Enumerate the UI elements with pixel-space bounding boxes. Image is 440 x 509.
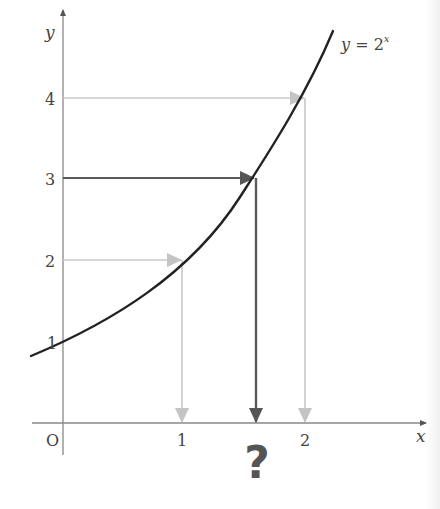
y-tick-1: 1 — [47, 334, 57, 353]
x-tick-1: 1 — [177, 431, 187, 450]
curve-label: y = 2x — [340, 33, 390, 54]
y-tick-3: 3 — [45, 170, 55, 189]
y-tick-2: 2 — [45, 252, 55, 271]
question-mark: ? — [244, 437, 270, 488]
origin-label: O — [46, 431, 59, 450]
y-axis-label: y — [44, 22, 55, 42]
exponential-graph: y = 2x y x O 4 3 2 1 1 2 ? — [0, 0, 440, 509]
x-axis-label: x — [416, 426, 426, 446]
lookup-y2-light — [63, 260, 182, 422]
x-tick-2: 2 — [300, 431, 310, 450]
y-tick-4: 4 — [45, 90, 55, 109]
